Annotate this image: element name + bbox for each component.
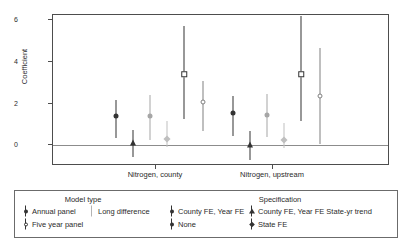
y-tick-label: 6	[0, 16, 18, 23]
marker-open-circle-icon	[201, 100, 206, 105]
marker-filled-circle-icon	[148, 114, 153, 119]
marker-open-square-icon	[298, 72, 304, 78]
y-tick-label: 2	[0, 99, 18, 106]
plot-area: Coefficient 0246 Nitrogen, countyNitroge…	[0, 0, 412, 186]
y-tick-label: 0	[0, 141, 18, 148]
marker-open-circle-icon	[318, 94, 323, 99]
plot-frame	[52, 14, 389, 165]
filled-circle-with-bar-icon	[167, 206, 176, 217]
legend-item-label: State FE	[258, 220, 287, 229]
marker-open-square-icon	[181, 72, 187, 78]
marker-filled-circle-icon	[114, 114, 119, 119]
legend-box: Model type Specification Annual panelFiv…	[14, 190, 398, 238]
confidence-interval-bar	[116, 100, 117, 137]
legend-item-label: Five year panel	[32, 220, 83, 229]
marker-filled-diamond-icon	[280, 136, 287, 143]
zero-reference-line	[53, 145, 388, 146]
marker-filled-diamond-icon	[163, 135, 170, 142]
confidence-interval-bar	[203, 81, 204, 131]
open-circle-with-bar-icon	[21, 219, 30, 230]
legend-item-label: Long difference	[98, 207, 150, 216]
filled-circle-with-bar-icon	[167, 219, 176, 230]
marker-filled-triangle-icon	[130, 139, 136, 145]
y-tick-label: 4	[0, 57, 18, 64]
filled-diamond-with-bar-icon	[247, 219, 256, 230]
legend-item-label: Annual panel	[32, 207, 76, 216]
x-tick-mark	[155, 165, 156, 169]
legend-item-label: County FE, Year FE State-yr trend	[258, 207, 372, 216]
gray-bar-icon	[87, 206, 96, 217]
y-axis-label: Coefficient	[20, 25, 29, 109]
x-tick-mark	[272, 165, 273, 169]
marker-filled-circle-icon	[231, 110, 236, 115]
marker-filled-triangle-icon	[247, 142, 253, 148]
chart-figure: Coefficient 0246 Nitrogen, countyNitroge…	[0, 0, 412, 246]
filled-circle-with-bar-icon	[21, 206, 30, 217]
x-tick-label: Nitrogen, upstream	[240, 170, 304, 179]
legend-item-label: None	[178, 220, 196, 229]
confidence-interval-bar	[301, 16, 302, 121]
marker-filled-circle-icon	[265, 112, 270, 117]
legend-title-model-type: Model type	[65, 195, 102, 204]
filled-triangle-with-bar-icon	[247, 206, 256, 217]
legend-title-specification: Specification	[259, 195, 302, 204]
legend-item-label: County FE, Year FE	[178, 207, 244, 216]
confidence-interval-bar	[233, 96, 234, 136]
x-tick-label: Nitrogen, county	[128, 170, 183, 179]
